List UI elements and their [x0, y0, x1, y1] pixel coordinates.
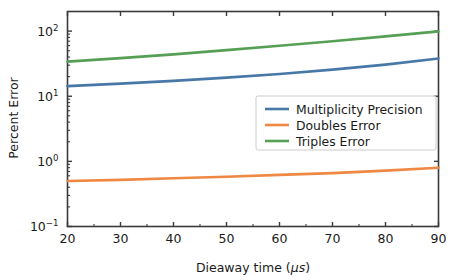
x-tick-label: 70 [325, 231, 341, 246]
x-tick-label: 20 [60, 231, 76, 246]
legend-label: Multiplicity Precision [296, 102, 423, 117]
figure-canvas: 2030405060708090 10−1100101102 Multiplic… [0, 0, 462, 280]
y-axis-title: Percent Error [6, 76, 21, 158]
x-tick-label: 30 [113, 231, 129, 246]
y-tick-label: 101 [37, 88, 58, 104]
y-tick-label: 10−1 [30, 218, 59, 234]
y-tick-label: 100 [37, 153, 58, 169]
x-tick-label: 80 [378, 231, 394, 246]
x-tick-label: 90 [431, 231, 447, 246]
x-axis-title: Dieaway time (μs) [196, 260, 310, 275]
legend-label: Triples Error [295, 134, 371, 149]
chart-legend[interactable]: Multiplicity PrecisionDoubles ErrorTripl… [256, 96, 436, 150]
series-line-multiplicity-precision [68, 58, 439, 86]
legend-label: Doubles Error [296, 118, 381, 133]
x-tick-label: 50 [219, 231, 235, 246]
x-tick-labels: 2030405060708090 [60, 231, 447, 246]
y-tick-labels: 10−1100101102 [30, 23, 59, 234]
y-tick-label: 102 [37, 23, 58, 39]
x-tick-label: 60 [272, 231, 288, 246]
series-line-doubles-error [68, 168, 439, 181]
chart-plot: 2030405060708090 10−1100101102 Multiplic… [0, 0, 462, 280]
series-line-triples-error [68, 31, 439, 61]
x-tick-label: 40 [166, 231, 182, 246]
